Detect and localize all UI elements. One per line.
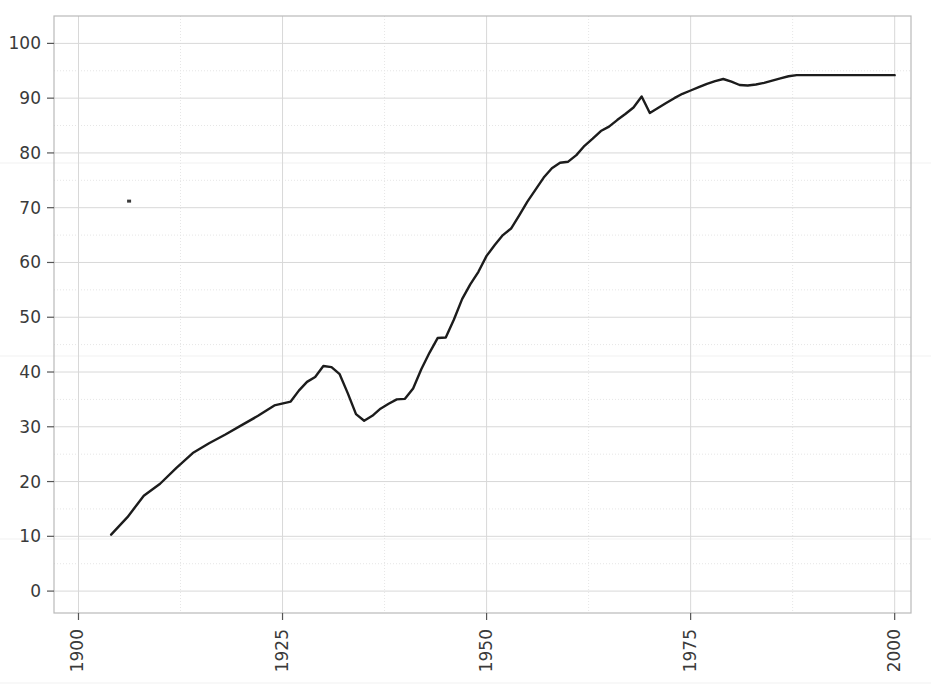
y-tick-label: 100 [9, 33, 41, 53]
x-tick-label: 1900 [67, 629, 87, 672]
x-tick-label: 1975 [680, 629, 700, 672]
x-tick-label: 2000 [884, 629, 904, 672]
annotations [127, 200, 131, 203]
y-tick-label: 20 [19, 472, 41, 492]
x-tick-label: 1950 [476, 629, 496, 672]
y-tick-label: 60 [19, 252, 41, 272]
y-tick-label: 30 [19, 417, 41, 437]
y-tick-label: 40 [19, 362, 41, 382]
scan-speck [127, 200, 131, 203]
x-tick-label: 1925 [272, 629, 292, 672]
line-chart: 0102030405060708090100 19001925195019752… [0, 0, 931, 690]
y-tick-label: 70 [19, 198, 41, 218]
y-tick-label: 80 [19, 143, 41, 163]
y-tick-label: 10 [19, 526, 41, 546]
y-tick-label: 0 [30, 581, 41, 601]
y-tick-label: 90 [19, 88, 41, 108]
chart-container: 0102030405060708090100 19001925195019752… [0, 0, 931, 690]
y-tick-label: 50 [19, 307, 41, 327]
